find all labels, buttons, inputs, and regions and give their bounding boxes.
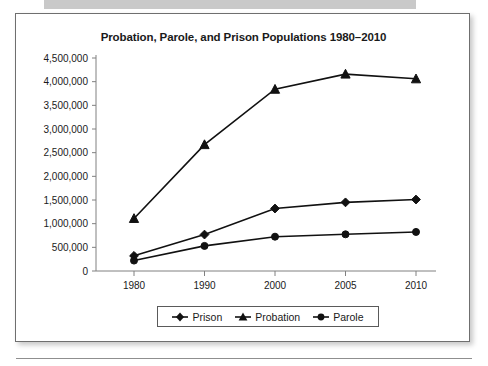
data-point-parole-2005 <box>342 231 349 238</box>
data-point-prison-2005 <box>341 198 350 207</box>
line-chart-svg: 4,500,0004,000,0003,500,0003,000,0002,50… <box>16 14 471 343</box>
legend-label-prison: Prison <box>192 311 222 323</box>
y-axis-tick-label: 1,500,000 <box>44 195 89 206</box>
x-axis-tick-label: 1980 <box>123 280 146 291</box>
y-axis-tick-label: 2,500,000 <box>44 147 89 158</box>
y-axis-tick-label: 1,000,000 <box>44 218 89 229</box>
data-point-parole-2000 <box>272 233 279 240</box>
bottom-divider <box>16 358 472 359</box>
series-line-probation <box>134 74 416 218</box>
chart-plot-area: 4,500,0004,000,0003,500,0003,000,0002,50… <box>16 14 471 343</box>
chart-card: Probation, Parole, and Prison Population… <box>15 13 470 342</box>
chart-legend: Prison Probation Parole <box>157 306 379 327</box>
data-point-prison-2000 <box>271 204 280 213</box>
triangle-marker-icon <box>235 311 251 323</box>
data-point-prison-1990 <box>200 230 209 239</box>
data-point-parole-1990 <box>201 242 208 249</box>
data-point-prison-2010 <box>412 195 421 204</box>
x-axis-tick-label: 2010 <box>405 280 428 291</box>
circle-marker-icon <box>313 311 329 323</box>
x-axis-tick-label: 2000 <box>264 280 287 291</box>
legend-label-probation: Probation <box>255 311 300 323</box>
top-grey-band <box>44 0 416 9</box>
y-axis-tick-label: 4,500,000 <box>44 53 89 64</box>
y-axis-tick-label: 2,000,000 <box>44 171 89 182</box>
diamond-marker-icon <box>172 311 188 323</box>
y-axis-tick-label: 3,000,000 <box>44 124 89 135</box>
data-point-parole-2010 <box>413 228 420 235</box>
x-axis-tick-label: 2005 <box>334 280 357 291</box>
legend-item-parole[interactable]: Parole <box>313 311 363 323</box>
data-point-parole-1980 <box>131 257 138 264</box>
x-axis-tick-label: 1990 <box>193 280 216 291</box>
legend-item-prison[interactable]: Prison <box>172 311 222 323</box>
y-axis-tick-label: 500,000 <box>52 242 89 253</box>
legend-label-parole: Parole <box>333 311 363 323</box>
y-axis-tick-label: 0 <box>82 266 88 277</box>
y-axis-tick-label: 4,000,000 <box>44 76 89 87</box>
y-axis-tick-label: 3,500,000 <box>44 100 89 111</box>
legend-item-probation[interactable]: Probation <box>235 311 300 323</box>
